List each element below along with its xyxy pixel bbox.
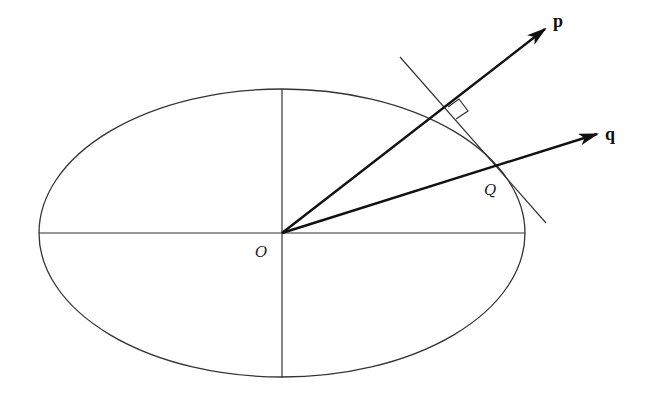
vector-p-arrow [282, 29, 545, 233]
point-q-label: Q [484, 181, 496, 199]
vector-q-arrow [282, 134, 597, 233]
vector-q-label: q [605, 124, 615, 144]
vector-p-label: p [553, 11, 563, 31]
tangent-line [400, 57, 546, 223]
origin-label: O [255, 243, 267, 261]
ellipse-diagram: p q Q O [0, 0, 649, 393]
